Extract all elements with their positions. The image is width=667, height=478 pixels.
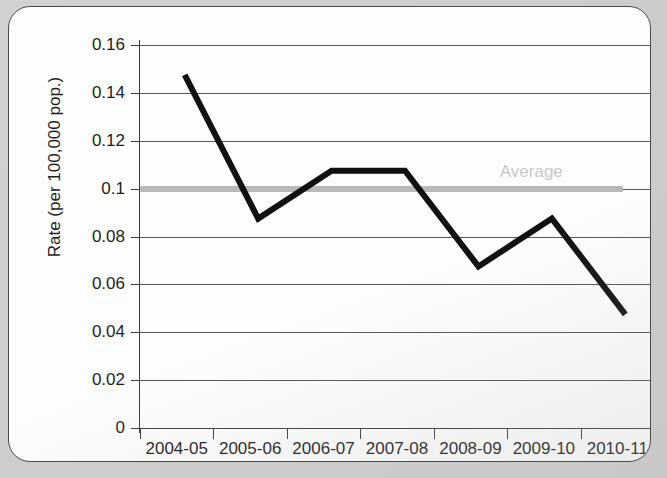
x-axis-tick [434,428,435,439]
x-axis-tick [581,428,582,439]
y-axis-tick-label: 0.14 [55,83,125,103]
plot-area [140,45,651,428]
chart-card: Rate (per 100,000 pop.) 0.160.140.120.10… [8,6,651,462]
x-axis-tick [213,428,214,439]
y-axis-tick-label: 0.06 [55,274,125,294]
y-axis-tick-label: 0 [55,418,125,438]
x-axis-tick [360,428,361,439]
x-axis-tick-label: 2007-08 [366,439,428,459]
x-axis-tick-label: 2009-10 [513,439,575,459]
chart-figure: Rate (per 100,000 pop.) 0.160.140.120.10… [0,0,667,478]
average-line-band [140,186,623,192]
x-axis-line [140,428,651,429]
gridline [140,93,651,94]
y-axis-tick-label: 0.12 [55,131,125,151]
y-axis-tick-label: 0.08 [55,227,125,247]
gridline [140,380,651,381]
x-axis-tick-label: 2004-05 [146,439,208,459]
y-axis-title-holder: Rate (per 100,000 pop.) [9,7,49,462]
x-axis-tick-label: 2005-06 [219,439,281,459]
x-axis-tick [140,428,141,439]
y-axis-line [139,40,140,433]
gridline [140,284,651,285]
average-label: Average [500,162,563,182]
y-axis-tick-label: 0.04 [55,322,125,342]
gridline [140,237,651,238]
y-axis-tick-label: 0.02 [55,370,125,390]
gridline [140,45,651,46]
gridline [140,332,651,333]
gridline [140,141,651,142]
x-axis-tick-label: 2008-09 [439,439,501,459]
y-axis-tick-label: 0.1 [55,179,125,199]
y-axis-tick-label: 0.16 [55,35,125,55]
x-axis-tick-label: 2006-07 [292,439,354,459]
x-axis-tick-label: 2010-11 [587,439,648,459]
x-axis-tick [287,428,288,439]
x-axis-tick [507,428,508,439]
